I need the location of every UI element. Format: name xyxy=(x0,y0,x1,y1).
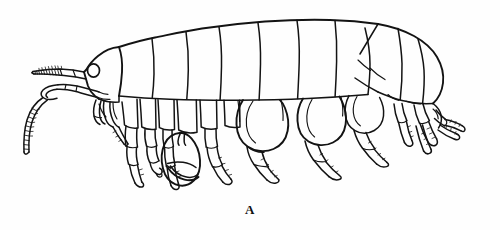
figure-plate: A xyxy=(0,0,500,230)
gnathopod-2-basis xyxy=(236,100,288,152)
pereopod-6 xyxy=(305,141,341,180)
gnathopod-1 xyxy=(125,126,143,187)
pleon xyxy=(378,24,443,128)
pereopod-4 xyxy=(205,129,232,185)
antenna-1 xyxy=(32,66,86,79)
uropods xyxy=(394,104,465,154)
antenna-2 xyxy=(24,84,99,154)
compound-eye-icon xyxy=(88,64,100,77)
coxal-plates xyxy=(122,99,240,133)
pereopod-7 xyxy=(354,131,389,167)
head xyxy=(84,47,122,102)
uropod-1 xyxy=(394,104,413,147)
posterior-coxal-plate xyxy=(345,96,384,133)
pereopod-basis-plate xyxy=(297,97,346,146)
uropod-rami-tips xyxy=(416,125,431,154)
figure-label: A xyxy=(0,203,500,216)
amphipod-illustration xyxy=(0,0,500,230)
uropod-3 xyxy=(435,110,465,140)
pereon xyxy=(119,20,384,153)
